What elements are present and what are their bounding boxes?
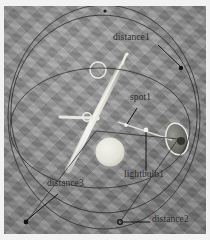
leader-distance3 (27, 194, 58, 220)
marker-distance1[interactable] (179, 66, 183, 70)
diagram-canvas: distance1 spot1 lightbulb1 distance3 dis… (0, 0, 210, 240)
label-distance3[interactable]: distance3 (47, 178, 84, 188)
annotation-layer (0, 0, 210, 240)
marker-distance2[interactable] (118, 220, 123, 225)
label-lightbulb1[interactable]: lightbulb1 (124, 169, 164, 179)
label-spot1[interactable]: spot1 (130, 92, 151, 102)
label-distance2[interactable]: distance2 (152, 214, 189, 224)
marker-distance3[interactable] (24, 220, 29, 225)
label-distance1[interactable]: distance1 (113, 32, 150, 42)
leader-distance1 (158, 45, 181, 67)
leader-spot1 (127, 108, 137, 124)
